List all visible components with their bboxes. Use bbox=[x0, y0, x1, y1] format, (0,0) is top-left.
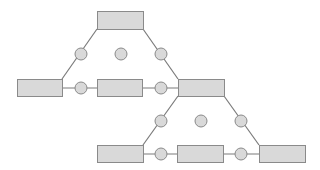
circle-node-c-top-mid bbox=[115, 48, 127, 60]
box-node-mid-center bbox=[98, 80, 143, 97]
circles-layer bbox=[75, 48, 247, 160]
circle-node-c-bot-right bbox=[235, 148, 247, 160]
network-diagram bbox=[0, 0, 320, 170]
circle-node-c-top-right bbox=[155, 48, 167, 60]
circle-node-c-low-right bbox=[235, 115, 247, 127]
circle-node-c-mid-right bbox=[155, 82, 167, 94]
box-node-top bbox=[98, 12, 144, 30]
box-node-mid-left bbox=[18, 80, 63, 97]
circle-node-c-low-mid bbox=[195, 115, 207, 127]
box-node-mid-right bbox=[179, 80, 225, 97]
box-node-bottom-center bbox=[178, 146, 224, 163]
box-node-bottom-right bbox=[260, 146, 306, 163]
circle-node-c-low-left bbox=[155, 115, 167, 127]
circle-node-c-top-left bbox=[75, 48, 87, 60]
box-node-bottom-left bbox=[98, 146, 144, 163]
circle-node-c-bot-left bbox=[155, 148, 167, 160]
circle-node-c-mid-left bbox=[75, 82, 87, 94]
